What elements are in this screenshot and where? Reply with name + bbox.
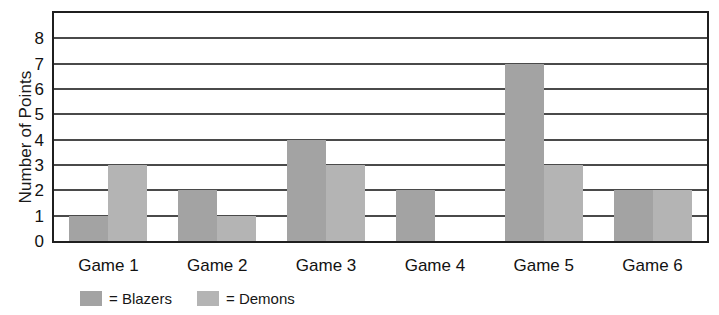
gridline-y-7 <box>54 63 707 65</box>
plot-area <box>52 11 709 243</box>
chart-legend: = Blazers= Demons <box>0 288 719 312</box>
plot-inner <box>54 13 707 241</box>
bar-blazers-game-4 <box>396 190 435 241</box>
gridline-y-5 <box>54 113 707 115</box>
gridline-y-1 <box>54 215 707 217</box>
bar-blazers-game-5 <box>505 64 544 241</box>
x-tick-label-game-6: Game 6 <box>593 256 713 276</box>
y-tick-label-4: 4 <box>16 132 44 149</box>
bar-demons-game-1 <box>108 165 147 241</box>
legend-item-demons: = Demons <box>197 290 295 307</box>
x-tick-label-game-1: Game 1 <box>48 256 168 276</box>
y-tick-label-2: 2 <box>16 182 44 199</box>
y-tick-label-8: 8 <box>16 30 44 47</box>
legend-label-demons: = Demons <box>226 290 295 307</box>
legend-label-blazers: = Blazers <box>109 290 172 307</box>
x-tick-label-game-5: Game 5 <box>484 256 604 276</box>
bar-blazers-game-1 <box>69 216 108 241</box>
y-tick-label-3: 3 <box>16 157 44 174</box>
gridline-y-2 <box>54 189 707 191</box>
legend-swatch-demons <box>197 291 219 306</box>
gridline-y-8 <box>54 37 707 39</box>
bar-demons-game-3 <box>326 165 365 241</box>
bar-demons-game-5 <box>544 165 583 241</box>
x-tick-label-game-2: Game 2 <box>157 256 277 276</box>
gridline-y-3 <box>54 164 707 166</box>
gridline-y-6 <box>54 88 707 90</box>
y-tick-label-7: 7 <box>16 56 44 73</box>
y-tick-label-6: 6 <box>16 81 44 98</box>
legend-item-blazers: = Blazers <box>80 290 172 307</box>
legend-swatch-blazers <box>80 291 102 306</box>
bar-blazers-game-2 <box>178 190 217 241</box>
y-tick-label-1: 1 <box>16 208 44 225</box>
y-tick-label-5: 5 <box>16 106 44 123</box>
x-tick-label-game-4: Game 4 <box>375 256 495 276</box>
bar-blazers-game-6 <box>614 190 653 241</box>
bar-blazers-game-3 <box>287 140 326 241</box>
y-tick-label-0: 0 <box>16 233 44 250</box>
chart-root: Number of Points 012345678 Game 1Game 2G… <box>0 0 719 315</box>
x-tick-label-game-3: Game 3 <box>266 256 386 276</box>
bar-demons-game-6 <box>653 190 692 241</box>
bar-demons-game-2 <box>217 216 256 241</box>
gridline-y-4 <box>54 139 707 141</box>
